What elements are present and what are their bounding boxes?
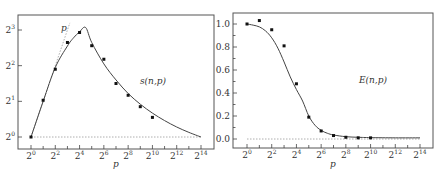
- y-tick-label: 0.6: [216, 65, 231, 75]
- x-tick-label: 210: [364, 148, 378, 160]
- x-axis-label: p: [330, 159, 336, 169]
- x-tick-label: 210: [146, 149, 160, 161]
- data-point: [102, 58, 105, 61]
- figure: 202224262821021221420212223ps(n,p)p 2022…: [0, 0, 439, 172]
- x-tick-label: 22: [267, 148, 277, 160]
- x-tick-label: 28: [123, 149, 133, 161]
- x-tick-label: 214: [194, 149, 208, 161]
- curve-annotation: E(n,p): [358, 75, 387, 85]
- data-point: [270, 28, 273, 31]
- data-point: [78, 31, 81, 34]
- data-point: [115, 82, 118, 85]
- data-point: [369, 136, 372, 139]
- x-tick-label: 22: [51, 149, 61, 161]
- data-point: [295, 82, 298, 85]
- data-point: [320, 129, 323, 132]
- x-tick-label: 212: [170, 149, 184, 161]
- x-tick-label: 26: [316, 148, 326, 160]
- x-tick-label: 24: [75, 149, 85, 161]
- x-axis-label: p: [113, 159, 119, 169]
- data-point: [258, 19, 261, 22]
- x-tick-label: 26: [99, 149, 109, 161]
- efficiency-model-curve: [247, 24, 420, 138]
- speedup-chart: 202224262821021221420212223ps(n,p)p: [5, 15, 214, 169]
- data-point: [66, 41, 69, 44]
- plot-frame: [233, 13, 433, 148]
- y-tick-label: 0.2: [216, 111, 230, 121]
- y-tick-label: 20: [5, 130, 15, 142]
- data-point: [332, 134, 335, 137]
- x-tick-label: 20: [242, 148, 252, 160]
- data-point: [42, 99, 45, 102]
- curve-annotation: s(n,p): [140, 76, 167, 86]
- data-point: [90, 44, 93, 47]
- y-tick-label: 21: [5, 94, 15, 106]
- data-point: [246, 23, 249, 26]
- y-tick-label: 0.8: [216, 42, 231, 52]
- y-tick-label: 0.0: [216, 134, 231, 144]
- data-point: [344, 136, 347, 139]
- x-tick-label: 214: [413, 148, 427, 160]
- ideal-speedup-label: p: [61, 23, 67, 33]
- x-tick-label: 212: [389, 148, 403, 160]
- data-point: [30, 136, 33, 139]
- x-tick-label: 28: [341, 148, 351, 160]
- data-point: [127, 94, 130, 97]
- y-tick-label: 0.4: [216, 88, 231, 98]
- y-tick-label: 23: [5, 23, 15, 35]
- x-tick-label: 20: [26, 149, 36, 161]
- y-tick-label: 22: [5, 59, 15, 71]
- y-tick-label: 1.0: [216, 19, 231, 29]
- data-point: [54, 68, 57, 71]
- efficiency-chart: 20222426282102122140.00.20.40.60.81.0E(n…: [216, 13, 433, 169]
- data-point: [283, 44, 286, 47]
- data-point: [151, 116, 154, 119]
- x-tick-label: 24: [292, 148, 302, 160]
- data-point: [307, 116, 310, 119]
- data-point: [139, 105, 142, 108]
- data-point: [357, 136, 360, 139]
